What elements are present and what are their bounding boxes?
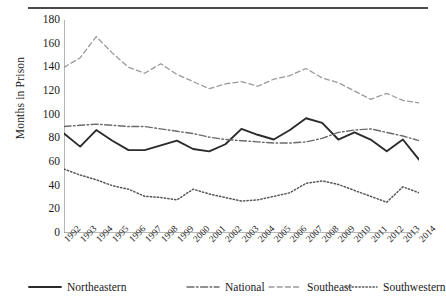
series-line-northeastern — [64, 118, 419, 159]
y-tick-label: 180 — [34, 14, 60, 26]
y-tick-label: 140 — [34, 61, 60, 73]
series-line-southeast — [64, 37, 419, 103]
legend-item-northeastern[interactable]: Northeastern — [28, 281, 126, 293]
line-chart-svg — [64, 20, 419, 233]
dotted-line-swatch — [344, 282, 378, 292]
y-tick-label: 60 — [34, 156, 60, 168]
y-axis-tick-labels: 020406080100120140160180 — [30, 0, 60, 253]
x-axis-tick-labels: 1992199319941995199619971998199920002001… — [0, 233, 437, 279]
y-tick-label: 100 — [34, 109, 60, 121]
top-rule-divider — [28, 7, 428, 9]
y-tick-label: 20 — [34, 203, 60, 215]
legend-label: National — [225, 281, 265, 293]
legend-item-southeast[interactable]: Southeast — [268, 281, 352, 293]
legend-label: Southwestern — [383, 281, 446, 293]
series-line-southwestern — [64, 169, 419, 202]
dash-dot-line-swatch — [186, 282, 220, 292]
plot-area — [64, 20, 419, 233]
y-axis-title: Months in Prison — [14, 23, 26, 173]
series-line-national — [64, 124, 419, 143]
y-tick-label: 80 — [34, 132, 60, 144]
y-tick-label: 160 — [34, 38, 60, 50]
x-tick-label: 2014 — [417, 223, 438, 244]
dashed-line-swatch — [268, 282, 302, 292]
legend-item-national[interactable]: National — [186, 281, 265, 293]
solid-line-swatch — [28, 282, 62, 292]
chart-legend: NortheasternNationalSoutheastSouthwester… — [0, 276, 437, 298]
y-tick-label: 120 — [34, 85, 60, 97]
legend-item-southwestern[interactable]: Southwestern — [344, 281, 446, 293]
legend-label: Northeastern — [67, 281, 126, 293]
y-tick-label: 40 — [34, 180, 60, 192]
